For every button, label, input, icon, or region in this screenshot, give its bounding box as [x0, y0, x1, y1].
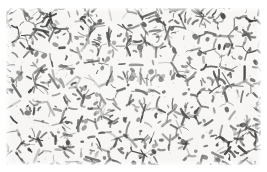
- grain-structure-svg: [6, 8, 261, 165]
- micrograph-field: [6, 8, 261, 165]
- micrograph-figure: [0, 0, 267, 172]
